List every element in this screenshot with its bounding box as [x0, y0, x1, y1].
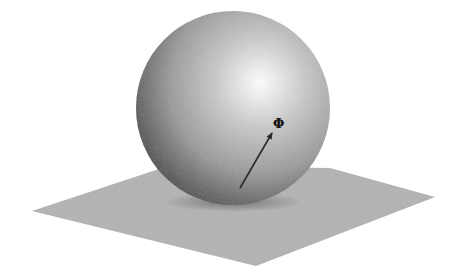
phi-label: Φ	[273, 117, 284, 130]
sphere-on-plane-diagram: Φ	[0, 0, 465, 280]
diagram-canvas	[0, 0, 465, 280]
sphere	[136, 11, 330, 205]
